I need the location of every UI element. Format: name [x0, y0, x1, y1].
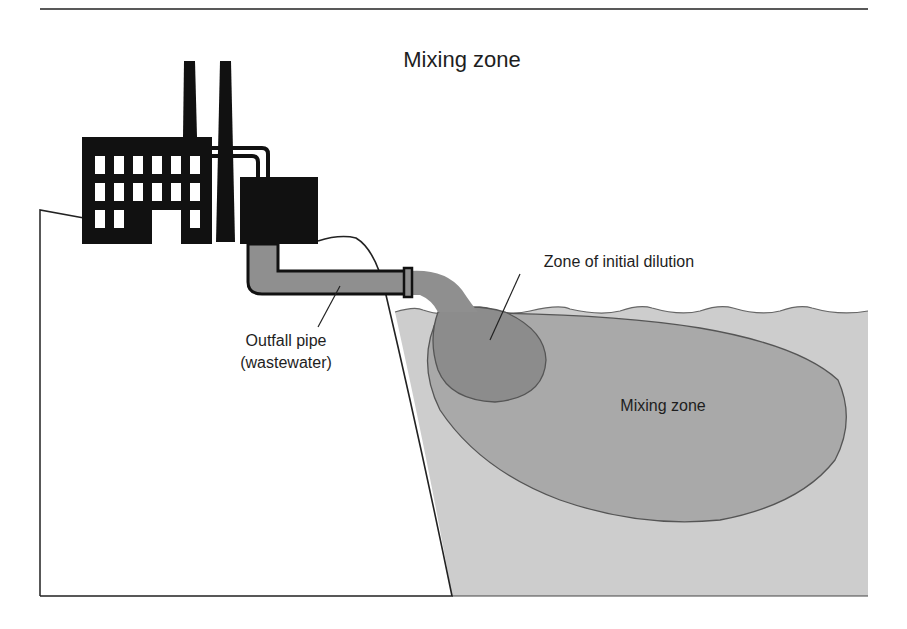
- mixing-zone-diagram: Mixing zone Outfall pipe (wastewat: [0, 0, 907, 629]
- effluent-stream: [408, 271, 478, 312]
- outfall-label-line2: (wastewater): [240, 354, 332, 371]
- mixing-zone-label: Mixing zone: [620, 397, 705, 414]
- figure-title: Mixing zone: [403, 47, 520, 72]
- shoreline-land: [40, 210, 452, 596]
- factory-door: [152, 210, 181, 244]
- smokestack-left: [183, 61, 197, 137]
- initial-dilution-label: Zone of initial dilution: [544, 253, 694, 270]
- treatment-tank: [240, 177, 318, 244]
- outfall-label-line1: Outfall pipe: [246, 332, 327, 349]
- smokestack-right: [216, 61, 235, 242]
- factory: [82, 137, 212, 244]
